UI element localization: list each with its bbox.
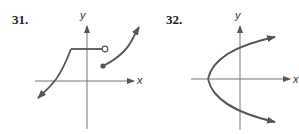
figure-31-curves — [38, 27, 139, 98]
figure-31-right-curve — [103, 27, 139, 66]
figure-31-open-circle — [102, 46, 108, 52]
figure-32-axes — [191, 26, 290, 130]
figure-32-curves — [208, 37, 275, 122]
graphs-canvas — [0, 0, 299, 134]
figure-31-left-curve — [38, 49, 71, 98]
figure-32-upper-branch — [208, 37, 275, 79]
figure-32-lower-branch — [208, 79, 275, 122]
figure-31-axes — [35, 26, 134, 129]
